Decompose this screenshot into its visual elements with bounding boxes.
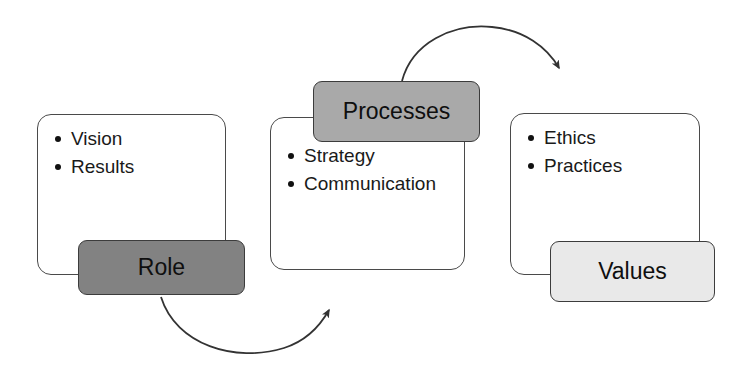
list-item-label: Strategy — [304, 145, 375, 166]
tag-values-label: Values — [598, 258, 667, 285]
bullet-icon — [55, 136, 61, 142]
bullet-icon — [528, 163, 534, 169]
list-item: Results — [54, 153, 134, 181]
list-item: Communication — [287, 170, 436, 198]
tag-role[interactable]: Role — [78, 240, 245, 295]
bullet-icon — [55, 164, 61, 170]
list-item-label: Ethics — [544, 127, 596, 148]
list-item-label: Vision — [71, 128, 122, 149]
card-role-list: Vision Results — [54, 125, 134, 181]
bullet-icon — [288, 181, 294, 187]
diagram-canvas: Vision Results Role Strategy Communicati… — [0, 0, 748, 370]
list-item-label: Practices — [544, 155, 622, 176]
bullet-icon — [528, 135, 534, 141]
card-processes-list: Strategy Communication — [287, 142, 436, 198]
card-values-list: Ethics Practices — [527, 124, 622, 180]
arrow-role-to-processes — [161, 297, 329, 353]
arrow-processes-to-values — [402, 26, 559, 81]
tag-values[interactable]: Values — [550, 241, 715, 302]
list-item-label: Communication — [304, 173, 436, 194]
list-item-label: Results — [71, 156, 134, 177]
bullet-icon — [288, 153, 294, 159]
list-item: Vision — [54, 125, 134, 153]
tag-processes[interactable]: Processes — [313, 81, 480, 142]
list-item: Practices — [527, 152, 622, 180]
list-item: Ethics — [527, 124, 622, 152]
tag-role-label: Role — [138, 254, 185, 281]
tag-processes-label: Processes — [343, 98, 450, 125]
list-item: Strategy — [287, 142, 436, 170]
